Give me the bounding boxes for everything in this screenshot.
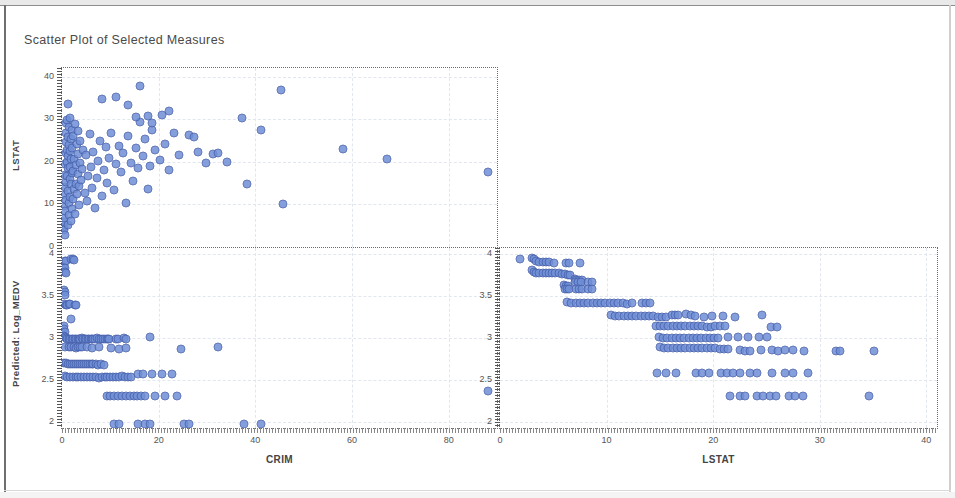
data-point [240, 419, 249, 428]
x-tick-label: 40 [912, 435, 940, 445]
data-point [165, 106, 174, 115]
x-tick-label: 0 [48, 435, 76, 445]
data-point [124, 132, 133, 141]
page-title: Scatter Plot of Selected Measures [24, 33, 225, 47]
data-point [339, 144, 348, 153]
data-point [744, 333, 753, 342]
data-point [733, 333, 742, 342]
data-point [121, 199, 130, 208]
gridline-horizontal [62, 422, 497, 423]
data-point [177, 345, 186, 354]
data-point [771, 392, 780, 401]
data-point [160, 392, 169, 401]
scatter-panel-lstat-vs-crim[interactable] [62, 68, 497, 247]
data-point [223, 158, 232, 167]
data-point [94, 156, 103, 165]
y-tick-label: 2 [454, 416, 492, 426]
gridline-horizontal [500, 380, 937, 381]
data-point [789, 368, 798, 377]
data-point [757, 345, 766, 354]
data-point [257, 419, 266, 428]
data-point [121, 344, 130, 353]
data-point [484, 168, 493, 177]
x-tick-label: 80 [435, 435, 463, 445]
data-point [131, 112, 140, 121]
data-point [731, 313, 740, 322]
data-point [109, 186, 118, 195]
x-tick-label: 10 [593, 435, 621, 445]
data-point [565, 259, 574, 268]
x-tick-label: 0 [486, 435, 514, 445]
data-point [237, 113, 246, 122]
window-bottom-edge [4, 490, 951, 491]
data-point [146, 333, 155, 342]
data-point [646, 298, 655, 307]
scatter-panel-predicted-vs-crim[interactable] [62, 248, 497, 428]
data-point [84, 171, 93, 180]
data-point [194, 148, 203, 157]
gridline-horizontal [62, 254, 497, 255]
data-point [516, 255, 525, 264]
data-point [718, 312, 727, 321]
data-point [724, 345, 733, 354]
data-point [662, 368, 671, 377]
data-point [864, 392, 873, 401]
gridline-horizontal [500, 254, 937, 255]
y-tick-label: 3.5 [16, 290, 54, 300]
data-point [155, 156, 164, 165]
data-point [201, 158, 210, 167]
y-tick-label: 2.5 [16, 374, 54, 384]
data-point [735, 368, 744, 377]
window-right-edge [949, 5, 951, 492]
y-axis-minor-ticks [57, 68, 62, 247]
data-point [136, 82, 145, 91]
data-point [242, 180, 251, 189]
data-point [720, 321, 729, 330]
data-point [71, 300, 80, 309]
data-point [758, 310, 767, 319]
y-tick-label: 3 [16, 332, 54, 342]
data-point [671, 368, 680, 377]
window-top-rule [0, 5, 955, 6]
data-point [724, 333, 733, 342]
y-tick-label: 20 [16, 156, 54, 166]
data-point [172, 392, 181, 401]
y-axis-minor-ticks [495, 248, 500, 428]
data-point [799, 346, 808, 355]
data-point [143, 184, 152, 193]
data-point [484, 387, 493, 396]
x-axis-minor-ticks [500, 428, 937, 433]
data-point [587, 284, 596, 293]
data-point [158, 370, 167, 379]
data-point [704, 368, 713, 377]
data-point [99, 166, 108, 175]
data-point [146, 162, 155, 171]
data-point [803, 368, 812, 377]
scatter-panel-predicted-vs-lstat[interactable] [500, 248, 937, 428]
data-point [88, 184, 97, 193]
data-point [628, 298, 637, 307]
data-point [95, 343, 104, 352]
data-point [870, 346, 879, 355]
data-point [133, 163, 142, 172]
gridline-horizontal [62, 77, 497, 78]
data-point [97, 192, 106, 201]
data-point [101, 142, 110, 151]
data-point [170, 129, 179, 138]
data-point [114, 419, 123, 428]
chart-window: Scatter Plot of Selected Measures 010203… [0, 0, 955, 498]
data-point [160, 140, 169, 149]
data-point [146, 419, 155, 428]
data-point [74, 127, 83, 136]
data-point [148, 370, 157, 379]
data-point [382, 154, 391, 163]
data-point [763, 333, 772, 342]
data-point [138, 370, 147, 379]
y-tick-label: 2 [16, 416, 54, 426]
data-point [63, 99, 72, 108]
y-tick-label: 2.5 [454, 374, 492, 384]
data-point [741, 392, 750, 401]
x-tick-label: 30 [806, 435, 834, 445]
gridline-horizontal [500, 422, 937, 423]
y-tick-label: 40 [16, 71, 54, 81]
